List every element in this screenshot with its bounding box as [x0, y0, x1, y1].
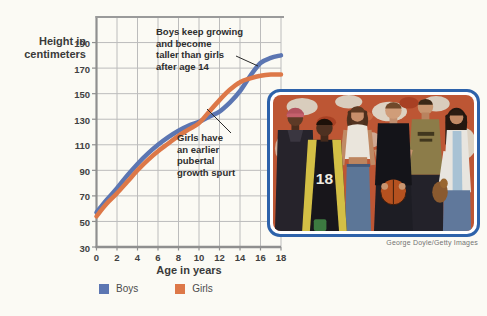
- x-tick-label: 0: [88, 252, 106, 263]
- legend-label-girls: Girls: [192, 283, 213, 294]
- y-tick-label: 130: [56, 115, 90, 126]
- y-tick-label: 90: [56, 166, 90, 177]
- x-tick-label: 16: [252, 252, 270, 263]
- x-tick-label: 18: [272, 252, 290, 263]
- x-tick-label: 4: [129, 252, 147, 263]
- x-tick-label: 8: [170, 252, 188, 263]
- y-tick-label: 110: [56, 140, 90, 151]
- y-tick-label: 170: [56, 64, 90, 75]
- x-tick-label: 6: [149, 252, 167, 263]
- x-tick-label: 12: [211, 252, 229, 263]
- teens-photo-illustration: 18: [273, 95, 474, 231]
- x-axis-title: Age in years: [96, 264, 282, 276]
- y-tick-label: 30: [56, 243, 90, 254]
- legend-label-boys: Boys: [116, 283, 138, 294]
- jersey-number: 18: [316, 170, 334, 187]
- legend-item-boys: Boys: [99, 283, 138, 294]
- x-tick-label: 14: [231, 252, 249, 263]
- y-tick-label: 150: [56, 89, 90, 100]
- chart-legend: Boys Girls: [99, 283, 213, 294]
- girls-color-swatch: [175, 284, 185, 294]
- annotation-girls: Girls have an earlier pubertal growth sp…: [177, 132, 257, 178]
- photo-credit: George Doyle/Getty Images: [386, 239, 478, 246]
- y-tick-label: 50: [56, 217, 90, 228]
- x-tick-label: 2: [108, 252, 126, 263]
- legend-item-girls: Girls: [175, 283, 213, 294]
- annotation-boys: Boys keep growing and become taller than…: [156, 26, 256, 72]
- figure-root: Height in centimeters Age in years 30507…: [0, 0, 487, 316]
- y-tick-label: 190: [56, 38, 90, 49]
- y-tick-label: 70: [56, 191, 90, 202]
- boys-color-swatch: [99, 284, 109, 294]
- teens-photo-inset: 18: [267, 89, 480, 237]
- x-tick-label: 10: [190, 252, 208, 263]
